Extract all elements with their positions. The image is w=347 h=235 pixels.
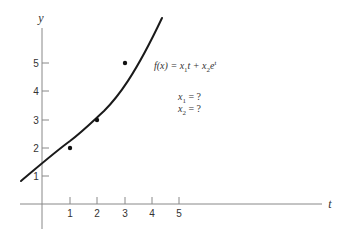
x-tick-label: 4 [149, 208, 155, 219]
x-tick-label: 3 [122, 208, 128, 219]
y-tick-label: 5 [33, 58, 39, 69]
x2-unknown: x2 = ? [178, 103, 201, 117]
model-equation: f(x) = x1t + x2et [154, 59, 216, 74]
model-text: f(x) = x [154, 60, 184, 71]
x-tick-label: 2 [94, 208, 100, 219]
chart-canvas: 1 2 3 4 5 1 2 3 4 5 y t [0, 0, 347, 235]
data-point [95, 118, 99, 122]
y-tick-label: 3 [33, 115, 39, 126]
y-axis-label: y [37, 11, 44, 25]
x-ticks: 1 2 3 4 5 [67, 197, 182, 219]
y-tick-label: 1 [33, 171, 39, 182]
y-tick-label: 4 [33, 86, 39, 97]
x2-rhs: = ? [186, 103, 201, 114]
data-point [68, 146, 72, 150]
model-sup: t [215, 59, 217, 67]
data-point [123, 61, 127, 65]
x-tick-label: 1 [67, 208, 73, 219]
x-tick-label: 5 [176, 208, 182, 219]
y-tick-label: 2 [33, 143, 39, 154]
x-axis-label: t [328, 197, 332, 211]
x1-rhs: = ? [186, 91, 201, 102]
model-text: t + x [188, 60, 207, 71]
